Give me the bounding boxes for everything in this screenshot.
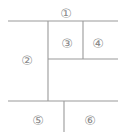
region-label-2: ② xyxy=(19,53,35,69)
region-label-1: ① xyxy=(58,6,74,22)
region-label-5: ⑤ xyxy=(30,113,46,129)
diagram-canvas: ① ② ③ ④ ⑤ ⑥ xyxy=(0,0,128,137)
region-label-6: ⑥ xyxy=(82,113,98,129)
region-label-4: ④ xyxy=(90,36,106,52)
region-label-3: ③ xyxy=(59,36,75,52)
